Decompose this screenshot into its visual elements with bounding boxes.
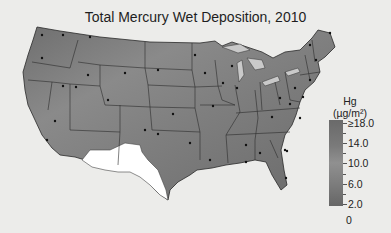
legend-unit-symbol: Hg <box>328 95 372 107</box>
legend-tick <box>343 204 347 205</box>
legend-title: Hg (µg/m²) <box>328 95 372 119</box>
legend-label: 10.0 <box>348 157 368 169</box>
legend-label: 14.0 <box>348 137 368 149</box>
legend-tick-minor <box>343 133 346 134</box>
legend-tick-minor <box>343 194 346 195</box>
legend-tick <box>343 123 347 124</box>
legend-tick-minor <box>343 174 346 175</box>
legend-colorbar <box>329 120 343 206</box>
legend-tick-minor <box>343 153 346 154</box>
legend-tick <box>343 143 347 144</box>
legend-label: ≥18.0 <box>348 117 374 129</box>
legend-label: 6.0 <box>348 178 363 190</box>
legend-label: 2.0 <box>348 198 363 210</box>
legend-label: 0 <box>346 214 352 226</box>
legend-tick <box>343 184 347 185</box>
legend-tick <box>343 163 347 164</box>
